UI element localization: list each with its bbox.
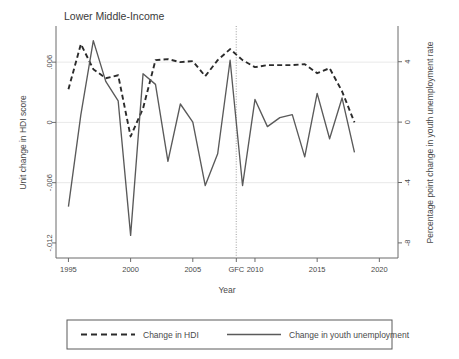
plot-title: Lower Middle-Income: [64, 10, 165, 22]
legend-box: Change in HDIChange in youth unemploymen…: [67, 320, 410, 349]
y-left-tick-label: -.006: [45, 174, 54, 191]
y-axis-title-left: Unit change in HDI score: [18, 95, 28, 190]
x-tick-label: 1995: [60, 265, 77, 274]
y-left-tick-label: 0: [45, 120, 54, 124]
y-left-tick-label: .006: [45, 55, 54, 70]
axis-ticks-layer: 199520002005GFC201020152020.0060-.006-.0…: [45, 55, 412, 274]
series-layer: [68, 41, 354, 236]
x-tick-label: 2005: [184, 265, 201, 274]
x-axis-title: Year: [218, 285, 235, 295]
legend-label-1: Change in youth unemployment: [289, 330, 410, 340]
y-right-tick-label: 0: [403, 120, 412, 124]
legend-label-0: Change in HDI: [143, 330, 199, 340]
dual-axis-line-chart: 199520002005GFC201020152020.0060-.006-.0…: [0, 0, 459, 359]
x-tick-label: GFC: [228, 265, 244, 274]
y-left-tick-label: -.012: [45, 234, 54, 251]
x-tick-label: 2010: [247, 265, 264, 274]
axis-titles-layer: Lower Middle-IncomeYearUnit change in HD…: [18, 10, 435, 295]
y-right-tick-label: -8: [403, 240, 412, 247]
plot-frame: [56, 26, 398, 258]
x-tick-label: 2015: [309, 265, 326, 274]
y-right-tick-label: -4: [403, 179, 412, 186]
y-right-tick-label: 4: [403, 60, 412, 64]
y-axis-title-right: Percentage point change in youth unemplo…: [425, 41, 435, 243]
x-tick-label: 2020: [371, 265, 388, 274]
chart-container: 199520002005GFC201020152020.0060-.006-.0…: [0, 0, 459, 359]
x-tick-label: 2000: [122, 265, 139, 274]
